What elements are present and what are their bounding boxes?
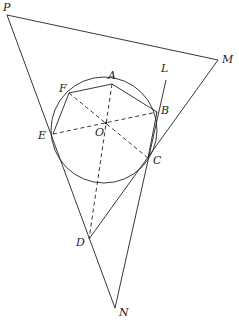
label-A: A	[108, 70, 116, 81]
geometry-diagram: P A L M F B O E C D N	[0, 0, 239, 329]
line-LN	[115, 80, 166, 308]
dash-FC	[69, 93, 148, 158]
label-P: P	[3, 2, 10, 13]
label-N: N	[119, 307, 129, 318]
label-E: E	[38, 130, 46, 141]
label-O: O	[95, 127, 104, 138]
label-F: F	[59, 83, 67, 94]
diagram-canvas	[0, 0, 239, 329]
label-B: B	[161, 105, 169, 116]
label-C: C	[153, 155, 161, 166]
line-PN	[7, 15, 115, 308]
polygon-FAB	[53, 84, 157, 158]
line-MD	[89, 60, 218, 239]
label-D: D	[76, 237, 85, 248]
center-point	[105, 122, 107, 124]
label-M: M	[222, 54, 233, 65]
dash-AD	[89, 84, 112, 239]
line-PM	[7, 15, 218, 60]
label-L: L	[161, 63, 168, 74]
